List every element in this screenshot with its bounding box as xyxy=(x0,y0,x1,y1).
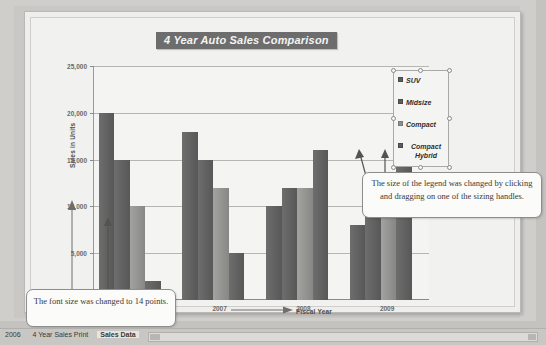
sheet-tab-sales-data[interactable]: Sales Data xyxy=(97,331,138,338)
legend-handle-top-left[interactable] xyxy=(391,68,396,73)
legend-handle-middle-right[interactable] xyxy=(447,116,452,121)
chart-object[interactable]: 4 Year Auto Sales Comparison Sales in Un… xyxy=(24,11,521,313)
legend-handle-bottom-right[interactable] xyxy=(447,165,452,170)
legend-callout: The size of the legend was changed by cl… xyxy=(362,172,542,218)
bar-compact-2007[interactable] xyxy=(213,188,228,300)
legend-label: Compact Hybrid xyxy=(406,142,446,160)
legend-handle-top-center[interactable] xyxy=(418,68,423,73)
font-callout-arrow xyxy=(100,214,116,292)
bar-suv-2009[interactable] xyxy=(350,225,365,300)
legend-item-midsize[interactable]: Midsize xyxy=(398,98,431,107)
legend-label: SUV xyxy=(406,76,420,85)
legend-swatch-icon xyxy=(398,77,403,82)
right-page-strip xyxy=(536,0,546,329)
y-tick-label: 15,000 xyxy=(67,156,87,163)
legend-swatch-icon xyxy=(398,121,403,126)
x-tick-label: 2009 xyxy=(380,305,394,312)
y-axis-title-arrow xyxy=(67,196,77,296)
legend-swatch-icon xyxy=(398,99,403,104)
y-tick-label: 25,000 xyxy=(67,63,87,70)
legend-handle-middle-left[interactable] xyxy=(391,116,396,121)
bar-suv-2007[interactable] xyxy=(182,132,197,300)
worksheet-canvas: 4 Year Auto Sales Comparison Sales in Un… xyxy=(0,0,546,345)
sheet-tab-2006[interactable]: 2006 xyxy=(2,331,24,338)
y-tick-label: 20,000 xyxy=(67,109,87,116)
x-tick-label: 2008 xyxy=(296,305,310,312)
legend-label: Compact xyxy=(406,120,436,129)
sheet-tab-strip[interactable]: 2006 4 Year Sales Print Sales Data xyxy=(2,331,139,338)
bar-compact-2008[interactable] xyxy=(297,188,312,300)
bar-suv-2008[interactable] xyxy=(266,206,281,300)
y-tick-label: 5,000 xyxy=(71,250,87,257)
bar-compact-hybrid-2007[interactable] xyxy=(229,253,244,300)
bar-group[interactable]: 2008 xyxy=(262,66,346,300)
scrollbar-thumb[interactable] xyxy=(150,334,160,340)
legend-item-suv[interactable]: SUV xyxy=(398,76,420,85)
bar-compact-2006[interactable] xyxy=(130,206,145,300)
bar-midsize-2008[interactable] xyxy=(282,188,297,300)
x-axis-title-arrow xyxy=(231,306,295,314)
legend-item-compact[interactable]: Compact xyxy=(398,120,436,129)
sheet-tab-4-year-sales-print[interactable]: 4 Year Sales Print xyxy=(30,331,92,338)
bar-group[interactable]: 2007 xyxy=(178,66,262,300)
scrollbar-right-button[interactable] xyxy=(528,334,536,340)
legend-handle-bottom-center[interactable] xyxy=(418,165,423,170)
font-callout: The font size was changed to 14 points. xyxy=(26,289,176,327)
bar-midsize-2007[interactable] xyxy=(198,160,213,300)
bar-midsize-2006[interactable] xyxy=(114,160,129,300)
status-bar: 2006 4 Year Sales Print Sales Data xyxy=(0,328,546,345)
x-tick-label: 2007 xyxy=(212,305,226,312)
chart-title[interactable]: 4 Year Auto Sales Comparison xyxy=(156,32,337,49)
horizontal-scrollbar[interactable] xyxy=(148,332,538,342)
legend-label: Midsize xyxy=(406,98,431,107)
bar-compact-hybrid-2008[interactable] xyxy=(313,150,328,300)
legend-handle-top-right[interactable] xyxy=(447,68,452,73)
y-tick-label: 10,000 xyxy=(67,203,87,210)
